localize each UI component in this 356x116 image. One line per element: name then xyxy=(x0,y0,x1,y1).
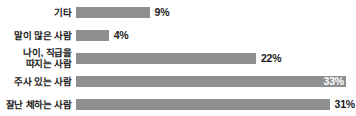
value-label: 4% xyxy=(114,30,129,41)
bar-track: 22% xyxy=(76,47,356,69)
value-label-wrapper: 33% xyxy=(76,70,346,92)
value-label: 33% xyxy=(324,76,344,87)
bar xyxy=(76,53,256,64)
category-label: 기타 xyxy=(0,7,76,18)
category-label: 나이, 직급을 따지는 사람 xyxy=(0,47,76,69)
category-label: 잘난 체하는 사람 xyxy=(0,99,76,110)
bar-track: 31% xyxy=(76,93,356,115)
bar-row: 말이 많은 사람4% xyxy=(0,24,356,46)
bar-track: 9% xyxy=(76,1,356,23)
bar-row: 기타9% xyxy=(0,1,356,23)
value-label: 22% xyxy=(261,53,281,64)
category-label: 주사 있는 사람 xyxy=(0,76,76,87)
value-label: 9% xyxy=(155,7,170,18)
value-label: 31% xyxy=(335,99,355,110)
bar xyxy=(76,7,150,18)
bar-track: 33% xyxy=(76,70,356,92)
bar-track: 4% xyxy=(76,24,356,46)
bar-row: 주사 있는 사람33% xyxy=(0,70,356,92)
category-label: 말이 많은 사람 xyxy=(0,30,76,41)
bar-row: 잘난 체하는 사람31% xyxy=(0,93,356,115)
bar xyxy=(76,99,330,110)
bar xyxy=(76,30,109,41)
horizontal-bar-chart: 기타9%말이 많은 사람4%나이, 직급을 따지는 사람22%주사 있는 사람3… xyxy=(0,0,356,116)
bar-row: 나이, 직급을 따지는 사람22% xyxy=(0,47,356,69)
